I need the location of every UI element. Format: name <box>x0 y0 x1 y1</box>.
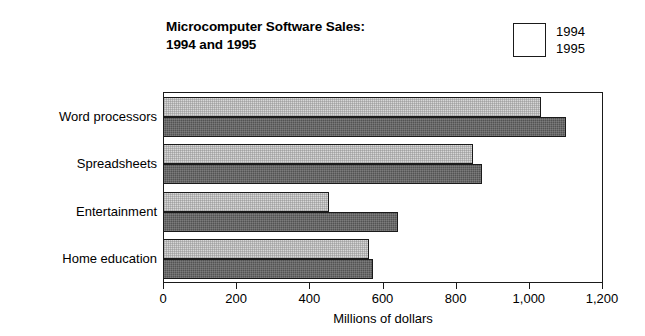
x-axis-tick <box>236 283 237 289</box>
x-axis-tick-label: 1,200 <box>586 291 619 307</box>
bar-group <box>164 97 603 137</box>
bar-group <box>164 239 603 279</box>
y-axis-label: Entertainment <box>0 205 157 219</box>
x-axis-tick <box>163 283 164 289</box>
bar-1995 <box>164 259 373 279</box>
chart-legend: 1994 1995 <box>513 23 585 57</box>
y-axis-label: Word processors <box>0 110 157 124</box>
bar-group <box>164 144 603 184</box>
legend-label-1995: 1995 <box>556 40 585 57</box>
x-axis-tick-label: 800 <box>445 291 467 307</box>
bar-1995 <box>164 212 398 232</box>
bar-1994 <box>164 239 369 259</box>
legend-swatch-1994-icon <box>513 23 546 40</box>
bars-layer <box>164 93 603 282</box>
x-axis-tick <box>602 283 603 289</box>
x-axis-tick <box>309 283 310 289</box>
x-axis-ticks <box>163 283 603 289</box>
bar-1995 <box>164 164 482 184</box>
y-axis-label: Home education <box>0 252 157 266</box>
x-axis-tick-label: 400 <box>298 291 320 307</box>
chart-title: Microcomputer Software Sales: 1994 and 1… <box>166 18 365 54</box>
bar-1994 <box>164 97 541 117</box>
x-axis-tick-label: 600 <box>372 291 394 307</box>
x-axis-tick <box>456 283 457 289</box>
x-axis-tick <box>383 283 384 289</box>
x-axis-tick-label: 1,000 <box>513 291 546 307</box>
bar-1994 <box>164 192 329 212</box>
x-axis-tick-label: 200 <box>225 291 247 307</box>
bar-group <box>164 192 603 232</box>
x-axis-title: Millions of dollars <box>163 311 603 327</box>
x-axis-tick-labels: 02004006008001,0001,200 <box>0 291 645 307</box>
legend-item-1994: 1994 <box>513 23 585 40</box>
legend-swatch-1995-icon <box>513 40 546 57</box>
bar-1994 <box>164 144 473 164</box>
x-axis-tick-label: 0 <box>159 291 166 307</box>
legend-label-1994: 1994 <box>556 23 585 40</box>
legend-item-1995: 1995 <box>513 40 585 57</box>
y-axis-category-labels: Word processorsSpreadsheetsEntertainment… <box>0 93 157 282</box>
x-axis-tick <box>529 283 530 289</box>
y-axis-label: Spreadsheets <box>0 157 157 171</box>
bar-1995 <box>164 117 566 137</box>
